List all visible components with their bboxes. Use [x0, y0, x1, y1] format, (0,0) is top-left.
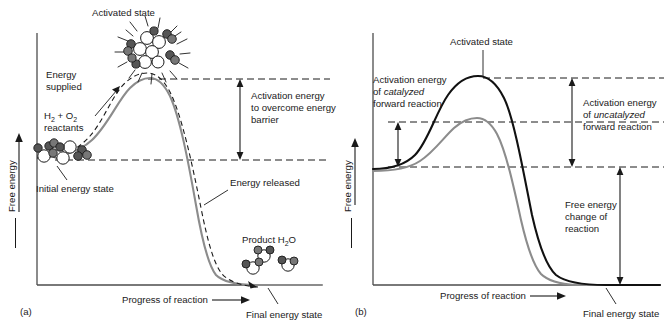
panel-a-activation-energy-line3: barrier [251, 114, 280, 125]
panel-a-product-molecules [242, 246, 298, 274]
panel-b-free-energy-change-line1: Free energy [565, 199, 617, 210]
panel-a-activated-state-label: Activated state [92, 7, 155, 18]
panel-b-uncatalyzed-label-line1: Activation energy [583, 97, 657, 108]
panel-b-catalyzed-label-line1: Activation energy [373, 74, 447, 85]
panel-a-energy-released-leader [204, 190, 228, 205]
panel-b-label: (b) [355, 306, 367, 317]
product-prefix: Product H [242, 234, 285, 245]
panel-a: Free energy [6, 7, 336, 320]
panel-a-reactants-formula: H2 + O2 [44, 110, 77, 123]
panel-a-activation-energy-line1: Activation energy [251, 90, 325, 101]
panel-b-uncatalyzed-label-line3: forward reaction [583, 121, 652, 132]
panel-b-catalyzed-label-line3: forward reaction [373, 98, 442, 109]
panel-b-free-energy-change-line3: reaction [565, 223, 599, 234]
panel-a-initial-energy-state-label: Initial energy state [36, 183, 114, 194]
panel-a-energy-supplied-curve [37, 73, 258, 287]
figure-container: Free energy [0, 0, 664, 330]
panel-b-final-energy-state-label: Final energy state [583, 308, 659, 319]
reactants-H: H [44, 110, 51, 121]
panel-a-label: (a) [20, 306, 32, 317]
catalyzed-of: of [373, 86, 384, 97]
panel-b-free-energy-change-line2: change of [565, 211, 607, 222]
product-suffix: O [289, 234, 296, 245]
panel-a-activation-energy-line2: to overcome energy [251, 102, 336, 113]
panel-a-product-label: Product H2O [242, 234, 296, 247]
panel-b: Free energy Activated state Activation e… [342, 33, 664, 319]
panel-a-progress-arrow [212, 296, 250, 303]
panel-b-activated-state-label: Activated state [450, 36, 513, 47]
panel-b-y-axis-label: Free energy [342, 160, 353, 212]
panel-b-free-energy-change-arrow [617, 167, 624, 285]
panel-a-energy-supplied-label-line2: supplied [46, 81, 82, 92]
panel-b-progress-arrow [530, 292, 566, 299]
uncatalyzed-emphasis: uncatalyzed [594, 109, 646, 120]
panel-a-energy-supplied-pointer [95, 86, 120, 116]
panel-a-energy-released-label: Energy released [230, 177, 300, 188]
panel-b-uncatalyzed-label-line2: of uncatalyzed [583, 109, 646, 120]
panel-a-y-axis-label: Free energy [6, 160, 17, 212]
panel-a-energy-supplied-label-line1: Energy [46, 69, 77, 80]
uncatalyzed-of: of [583, 109, 594, 120]
panel-b-final-energy-leader [606, 288, 616, 304]
panel-a-final-energy-state-label: Final energy state [246, 309, 322, 320]
panel-a-activation-energy-arrow [237, 79, 244, 160]
panel-b-catalyzed-label-line2: of catalyzed [373, 86, 425, 97]
panel-a-final-energy-leader [268, 288, 278, 304]
catalyzed-emphasis: catalyzed [384, 86, 425, 97]
panel-a-initial-energy-leader [57, 166, 67, 180]
panel-a-reactants-label: reactants [44, 122, 84, 133]
panel-a-x-axis-label: Progress of reaction [122, 294, 208, 305]
energy-diagram-svg: Free energy [0, 0, 664, 330]
panel-b-x-axis-label: Progress of reaction [440, 290, 526, 301]
panel-b-catalyzed-activation-arrow [395, 122, 402, 167]
